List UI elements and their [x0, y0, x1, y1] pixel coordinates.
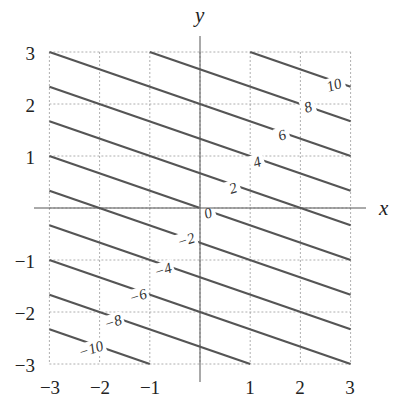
x-tick-label: −1 — [140, 377, 160, 398]
contour-line — [150, 52, 351, 121]
x-tick-labels: −3 −2 −1 1 2 3 — [40, 377, 355, 398]
x-tick-label: 3 — [345, 377, 355, 398]
y-tick-label: −3 — [15, 355, 35, 376]
x-axis-label: x — [378, 196, 389, 220]
contour-label: 0 — [199, 203, 218, 223]
y-tick-label: 3 — [26, 43, 36, 64]
contour-label: 8 — [299, 97, 318, 117]
x-tick-label: 2 — [295, 377, 305, 398]
contour-plot: 1086420−2−4−6−8−10 x y −3 −2 −1 1 2 3 3 … — [0, 0, 403, 408]
contour-labels: 1086420−2−4−6−8−10 — [74, 74, 346, 361]
y-axis-label: y — [193, 3, 205, 27]
x-tick-label: −2 — [90, 377, 110, 398]
contour-label: 2 — [224, 178, 243, 198]
y-tick-label: −2 — [15, 303, 35, 324]
x-tick-label: 1 — [245, 377, 255, 398]
y-tick-label: 1 — [26, 147, 36, 168]
y-tick-label: −1 — [15, 251, 35, 272]
contour-label: −2 — [173, 229, 199, 251]
contour-label: 6 — [273, 125, 292, 145]
y-tick-labels: 3 2 1 −1 −2 −3 — [15, 43, 35, 376]
y-tick-label: 2 — [26, 95, 36, 116]
x-tick-label: −3 — [40, 377, 60, 398]
